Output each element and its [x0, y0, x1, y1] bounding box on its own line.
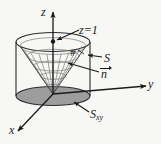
x-axis-label: x — [9, 124, 14, 136]
surface-patch-marker: # — [70, 47, 76, 58]
y-axis-label: y — [148, 78, 153, 90]
z-axis-label: z — [41, 6, 46, 18]
normal-vector-label-n: n — [101, 68, 107, 80]
diagram-canvas — [0, 0, 161, 144]
projection-label-sxy: Sxy — [90, 108, 103, 122]
math-diagram-figure: z z=1 S n Sxy y x # — [0, 0, 161, 144]
projection-label-subscript: xy — [96, 113, 103, 122]
point-marker-z1 — [51, 39, 55, 43]
leader-projection-sxy — [74, 102, 89, 112]
normal-vector-overbar-arrowhead-icon — [109, 66, 112, 70]
plane-level-label: z=1 — [79, 24, 98, 36]
surface-label-s: S — [104, 52, 110, 64]
leader-normal-n — [68, 63, 99, 72]
